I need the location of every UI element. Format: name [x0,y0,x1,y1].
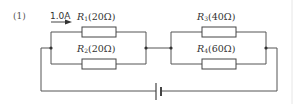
r3-label: R3(40Ω) [197,12,235,22]
r3-value: (40Ω) [208,11,235,22]
r2-label: R2(20Ω) [77,44,115,54]
r4-label: R4(60Ω) [197,44,235,54]
junction-dot [169,46,172,49]
junction-dot [49,46,52,49]
r1-value: (20Ω) [88,11,115,22]
circuit-svg [0,0,295,104]
r1-label: R1(20Ω) [77,12,115,22]
wires [41,32,277,91]
r4-value: (60Ω) [208,43,235,54]
r2-value: (20Ω) [88,43,115,54]
resistor-r1 [82,27,116,37]
problem-number: (1) [13,12,26,21]
circuit-diagram: (1) 1.0A R1(20Ω) R2(20Ω) R3(40Ω) R4(60Ω) [0,0,295,104]
resistor-r2 [82,59,116,69]
junction-dot [144,46,147,49]
resistor-r3 [202,27,236,37]
current-label: 1.0A [50,12,70,21]
resistor-r4 [202,59,236,69]
junction-dot [264,46,267,49]
battery-icon [156,83,161,100]
